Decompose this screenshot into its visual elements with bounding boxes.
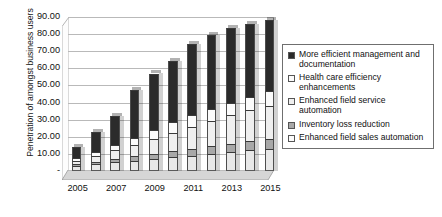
- plot-area: [62, 17, 274, 180]
- bar-segment[interactable]: [91, 164, 101, 171]
- bar-segment[interactable]: [226, 152, 236, 171]
- x-tick-label: 2009: [141, 183, 169, 193]
- bar-top-face: [93, 129, 103, 132]
- x-axis-tick-labels: 200520072009201120132015: [62, 183, 280, 203]
- legend-item-label: Enhanced field service automation: [299, 96, 429, 115]
- x-tick-label: 2015: [256, 183, 284, 193]
- bar-stack: [187, 44, 197, 171]
- bar-segment[interactable]: [226, 115, 236, 143]
- bar-stack: [226, 28, 236, 171]
- legend-item[interactable]: Health care efficiency enhancements: [288, 73, 429, 92]
- bar-column[interactable]: [207, 17, 217, 171]
- bar-segment[interactable]: [245, 24, 255, 97]
- bar-segment[interactable]: [245, 150, 255, 171]
- bar-segment[interactable]: [110, 116, 120, 145]
- y-tick-label: 90.00: [37, 12, 60, 21]
- bar-segment[interactable]: [207, 35, 217, 109]
- bar-segment[interactable]: [72, 166, 82, 171]
- bar-segment[interactable]: [187, 44, 197, 115]
- bar-segment[interactable]: [265, 149, 275, 171]
- bar-segment[interactable]: [207, 121, 217, 147]
- legend-swatch-icon: [288, 122, 295, 129]
- bar-segment[interactable]: [245, 110, 255, 141]
- y-tick-label: 40.00: [37, 98, 60, 107]
- bar-side-face: [101, 132, 105, 171]
- x-tick-label: 2007: [102, 183, 130, 193]
- bar-segment[interactable]: [226, 28, 236, 102]
- chart-legend: More efficient management and documentat…: [282, 44, 434, 149]
- bar-segment[interactable]: [187, 115, 197, 126]
- bar-segment[interactable]: [130, 138, 140, 145]
- bar-segment[interactable]: [149, 159, 159, 171]
- y-tick-label: 50.00: [37, 80, 60, 89]
- y-tick-label: 60.00: [37, 63, 60, 72]
- bar-segment[interactable]: [187, 149, 197, 156]
- bar-segment[interactable]: [72, 147, 82, 158]
- legend-item[interactable]: More efficient management and documentat…: [288, 50, 429, 69]
- bar-segment[interactable]: [187, 156, 197, 171]
- bar-top-face: [170, 58, 180, 61]
- bar-segment[interactable]: [265, 139, 275, 149]
- bar-segment[interactable]: [149, 74, 159, 130]
- bar-segment[interactable]: [110, 150, 120, 159]
- bar-stack: [130, 90, 140, 171]
- bar-top-face: [189, 41, 199, 44]
- bar-top-face: [247, 21, 257, 24]
- legend-item[interactable]: Enhanced field sales automation: [288, 133, 429, 143]
- bar-segment[interactable]: [207, 146, 217, 154]
- bar-segment[interactable]: [91, 132, 101, 153]
- y-tick-label: 10.00: [37, 149, 60, 158]
- bar-segment[interactable]: [226, 144, 236, 153]
- bar-stack: [168, 61, 178, 171]
- legend-swatch-icon: [288, 98, 295, 105]
- bar-segment[interactable]: [168, 157, 178, 171]
- bar-side-face: [274, 20, 278, 171]
- bar-top-face: [151, 70, 161, 73]
- bar-stack: [265, 20, 275, 171]
- bar-segment[interactable]: [168, 133, 178, 152]
- plot-floor: [62, 170, 274, 180]
- bar-column[interactable]: [265, 17, 275, 171]
- bar-column[interactable]: [149, 17, 159, 171]
- bar-side-face: [159, 73, 163, 171]
- bar-column[interactable]: [72, 17, 82, 171]
- bar-top-face: [267, 17, 277, 20]
- legend-swatch-icon: [288, 52, 295, 59]
- y-tick-label: 20.00: [37, 132, 60, 141]
- bar-side-face: [236, 28, 240, 171]
- bar-segment[interactable]: [226, 103, 236, 116]
- bar-column[interactable]: [130, 17, 140, 171]
- bar-segment[interactable]: [265, 20, 275, 92]
- legend-item[interactable]: Enhanced field service automation: [288, 96, 429, 115]
- bar-segment[interactable]: [207, 154, 217, 171]
- bar-segment[interactable]: [187, 127, 197, 149]
- bar-column[interactable]: [168, 17, 178, 171]
- bar-segment[interactable]: [130, 161, 140, 171]
- bar-top-face: [112, 113, 122, 116]
- bar-stack: [245, 24, 255, 171]
- bar-segment[interactable]: [265, 106, 275, 139]
- bar-segment[interactable]: [110, 162, 120, 171]
- bar-segment[interactable]: [149, 139, 159, 154]
- y-axis-tick-labels: 90.0080.0070.0060.0050.0040.0030.0020.00…: [22, 0, 60, 217]
- bar-column[interactable]: [110, 17, 120, 171]
- x-tick-label: 2013: [218, 183, 246, 193]
- y-tick-label: -: [57, 166, 60, 175]
- bar-segment[interactable]: [130, 90, 140, 138]
- bar-column[interactable]: [245, 17, 255, 171]
- bar-column[interactable]: [91, 17, 101, 171]
- bar-side-face: [139, 90, 143, 171]
- legend-swatch-icon: [288, 135, 295, 142]
- bar-column[interactable]: [187, 17, 197, 171]
- bar-segment[interactable]: [265, 91, 275, 106]
- legend-item[interactable]: Inventory loss reduction: [288, 120, 429, 130]
- bar-segment[interactable]: [245, 141, 255, 150]
- bar-column[interactable]: [226, 17, 236, 171]
- y-tick-label: 80.00: [37, 29, 60, 38]
- bar-segment[interactable]: [245, 97, 255, 111]
- bar-segment[interactable]: [130, 145, 140, 157]
- bar-segment[interactable]: [149, 130, 159, 139]
- bar-segment[interactable]: [168, 61, 178, 123]
- bar-segment[interactable]: [168, 122, 178, 132]
- bar-segment[interactable]: [207, 109, 217, 121]
